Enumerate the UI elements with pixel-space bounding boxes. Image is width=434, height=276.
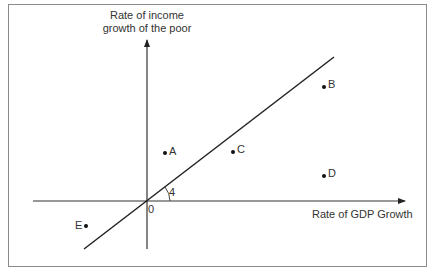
angle-label: 4 xyxy=(169,186,175,198)
point-a-label: A xyxy=(169,145,176,157)
y-axis-label: Rate of income growth of the poor xyxy=(88,9,206,35)
y-axis-label-line2: growth of the poor xyxy=(88,22,206,35)
point-a-dot xyxy=(163,151,167,155)
point-e-dot xyxy=(84,224,88,228)
point-b-dot xyxy=(322,85,326,89)
y-axis-label-line1: Rate of income xyxy=(88,9,206,22)
origin-label: 0 xyxy=(148,203,154,215)
point-e-label: E xyxy=(75,219,82,231)
diagram-canvas xyxy=(0,0,434,276)
point-b-label: B xyxy=(328,78,335,90)
point-c-dot xyxy=(231,150,235,154)
x-axis-label: Rate of GDP Growth xyxy=(312,208,413,221)
point-d-label: D xyxy=(328,167,336,179)
point-c-label: C xyxy=(237,143,245,155)
growth-line xyxy=(84,57,334,249)
point-d-dot xyxy=(322,174,326,178)
